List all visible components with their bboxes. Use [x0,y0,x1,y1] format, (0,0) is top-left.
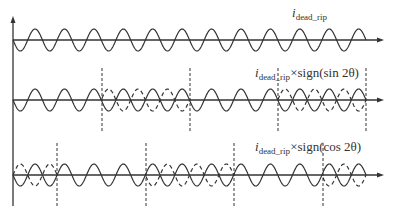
time-axis-arrow-icon [377,38,384,43]
label-suffix: ×sign(cos 2θ) [290,139,361,154]
waveform-row1 [13,29,384,51]
label-sub: dead_rip [259,146,291,156]
waveform-canvas [0,0,397,217]
label-sub: dead_rip [296,12,328,22]
label-row2: idead_rip×sign(sin 2θ) [255,66,359,82]
label-row3: idead_rip×sign(cos 2θ) [255,140,361,156]
time-axis-arrow-icon [377,173,384,178]
time-axis-arrow-icon [377,98,384,103]
vertical-axis-arrow-icon [11,16,16,23]
label-suffix: ×sign(sin 2θ) [290,65,359,80]
label-sub: dead_rip [259,72,291,82]
label-row1: idead_rip [292,6,327,22]
rows-layer [13,29,384,207]
